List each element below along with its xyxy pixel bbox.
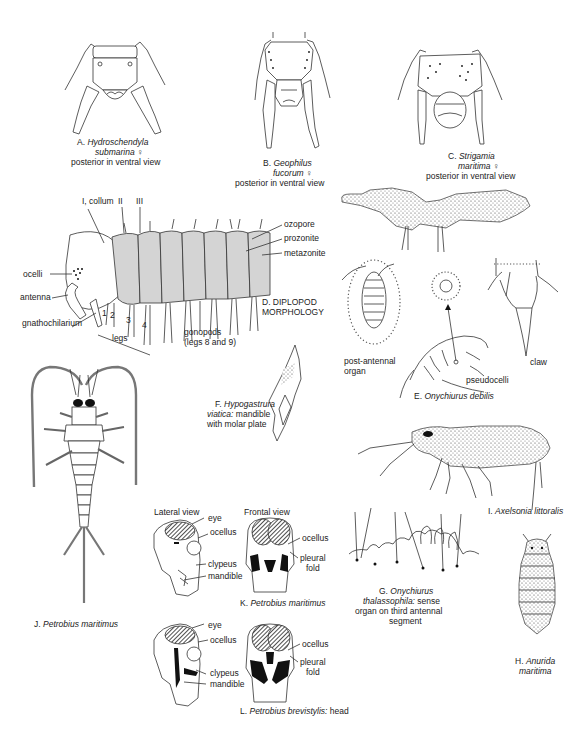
figure-a-view-note: posterior in ventral view xyxy=(71,157,160,167)
label-ocellus-frontal: ocellus xyxy=(302,533,328,543)
label-leg-3: 3 xyxy=(126,315,131,325)
label-pleural-fold: pleural xyxy=(300,553,326,563)
springtail-dorsal-illustration xyxy=(505,530,569,640)
figure-g-genus: Onychiurus xyxy=(390,586,433,596)
figure-l-petrobius-brevistylis-head: eye ocellus clypeus mandible ocellus ple… xyxy=(140,618,340,730)
label-segment-iii: III xyxy=(136,196,143,206)
figure-b-species: fucorum xyxy=(273,168,304,178)
figure-a-hydroschendyla: A. Hydroschendyla submarina ♀ posterior … xyxy=(55,30,175,165)
label-eye: eye xyxy=(208,620,222,630)
label-claw: claw xyxy=(530,357,547,367)
figure-f-note-line2: with molar plate xyxy=(207,419,267,429)
centipede-posterior-illustration xyxy=(55,30,175,140)
figure-f-species: viatica: xyxy=(207,409,233,419)
figure-a-species: submarina xyxy=(95,147,135,157)
figure-l-species: Petrobius brevistylis: xyxy=(249,706,327,716)
label-metazonite: metazonite xyxy=(284,248,326,258)
figure-g-species: thalassophila: xyxy=(363,596,415,606)
figure-c-genus: Strigamia xyxy=(459,151,495,161)
figure-b-geophilus: B. Geophilus fucorum ♀ posterior in vent… xyxy=(235,30,355,180)
figure-l-letter: L. xyxy=(240,706,247,716)
figure-a-genus: Hydroschendyla xyxy=(87,137,148,147)
label-ozopore: ozopore xyxy=(284,219,315,229)
figure-g-note-line3: segment xyxy=(389,616,422,626)
label-mandible: mandible xyxy=(210,679,245,689)
figure-a-letter: A. xyxy=(77,137,85,147)
figure-c-strigamia: C. Strigamia maritima ♀ posterior in ven… xyxy=(390,40,520,180)
figure-j-petrobius-maritimus: J. Petrobius maritimus xyxy=(20,355,150,625)
label-prozonite: prozonite xyxy=(284,233,319,243)
figure-k-petrobius-head-views: Lateral view Frontal view eye ocellus cl… xyxy=(140,500,340,615)
figure-h-letter: H. xyxy=(515,656,524,666)
figure-d-diplopod-morphology: I, collum II III ozopore prozonite metaz… xyxy=(0,195,340,355)
label-clypeus: clypeus xyxy=(210,668,239,678)
figure-f-note: mandible xyxy=(236,409,271,419)
figure-e-species: Onychiurus debilis xyxy=(424,391,493,401)
female-symbol: ♀ xyxy=(137,147,143,157)
figure-h-genus: Anurida xyxy=(526,656,555,666)
label-clypeus: clypeus xyxy=(208,559,237,569)
label-ocellus-lateral: ocellus xyxy=(210,527,236,537)
female-symbol: ♀ xyxy=(306,168,312,178)
figure-l-note: head xyxy=(330,706,349,716)
figure-j-species: Petrobius maritimus xyxy=(43,619,118,629)
figure-i-species: Axelsonia littoralis xyxy=(495,506,563,516)
label-gonopods: gonopods xyxy=(184,327,221,337)
label-leg-2: 2 xyxy=(110,310,115,320)
figure-g-note-line2: organ on third antennal xyxy=(355,606,442,616)
figure-b-view-note: posterior in ventral view xyxy=(235,178,324,188)
female-symbol: ♀ xyxy=(493,161,499,171)
figure-e-onychiurus-debilis: post-antennal organ claw pseudocelli E. … xyxy=(330,180,569,410)
label-ocellus-lateral: ocellus xyxy=(210,635,236,645)
figure-f-hypogastrura-mandible: F. Hypogastrura viatica: mandible with m… xyxy=(195,345,335,455)
label-collum: I, collum xyxy=(82,196,114,206)
figure-g-note: sense xyxy=(417,596,440,606)
label-pleural-fold-line2: fold xyxy=(306,667,320,677)
label-leg-1: 1 xyxy=(102,308,107,318)
figure-k-species: Petrobius maritimus xyxy=(250,598,325,608)
label-pleural-fold-line2: fold xyxy=(306,563,320,573)
figure-c-letter: C. xyxy=(448,151,457,161)
bristletail-illustration xyxy=(20,355,150,615)
sense-organ-illustration xyxy=(345,500,505,580)
figure-f-letter: F. xyxy=(215,399,222,409)
label-legs: legs xyxy=(112,333,128,343)
label-post-antennal-organ: post-antennal xyxy=(344,356,396,366)
label-segment-ii: II xyxy=(118,196,123,206)
figure-g-letter: G. xyxy=(379,586,388,596)
figure-d-caption-line1: D. DIPLOPOD xyxy=(262,297,317,307)
centipede-posterior-illustration xyxy=(235,30,345,155)
figure-k-letter: K. xyxy=(240,598,248,608)
figure-f-genus: Hypogastrura xyxy=(224,399,275,409)
label-antenna: antenna xyxy=(20,292,51,302)
figure-g-onychiurus-thalassophila: G. Onychiurus thalassophila: sense organ… xyxy=(345,500,505,615)
label-pseudocelli: pseudocelli xyxy=(466,375,509,385)
label-ocellus-frontal: ocellus xyxy=(302,639,328,649)
figure-d-caption-line2: MORPHOLOGY xyxy=(262,307,324,317)
figure-b-genus: Geophilus xyxy=(273,158,311,168)
figure-h-anurida-maritima: H. Anurida maritima xyxy=(505,530,569,680)
label-eye: eye xyxy=(208,513,222,523)
label-pleural-fold: pleural xyxy=(300,657,326,667)
figure-b-letter: B. xyxy=(263,158,271,168)
figure-h-species: maritima xyxy=(519,666,552,676)
label-leg-4: 4 xyxy=(142,320,147,330)
label-ocelli: ocelli xyxy=(23,269,42,279)
figure-e-letter: E. xyxy=(414,391,422,401)
figure-c-species: maritima xyxy=(458,161,491,171)
figure-j-letter: J. xyxy=(34,619,41,629)
label-mandible: mandible xyxy=(208,571,243,581)
centipede-posterior-illustration xyxy=(390,40,510,150)
label-gnathochilarium: gnathochilarium xyxy=(22,318,82,328)
label-post-antennal-organ-line2: organ xyxy=(344,366,366,376)
